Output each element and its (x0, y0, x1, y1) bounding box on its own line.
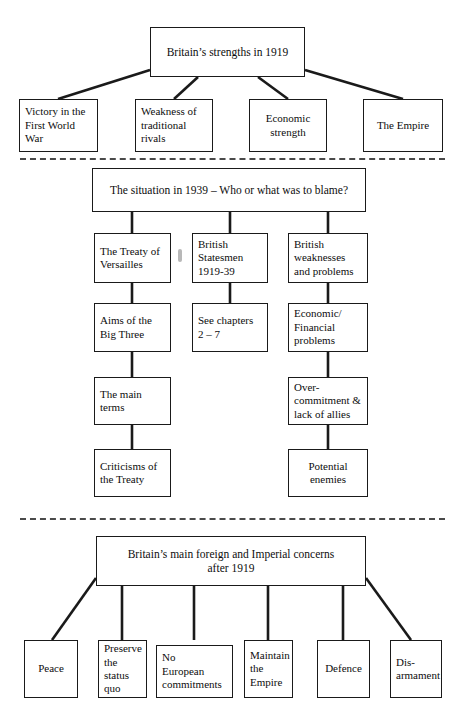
node-label: The situation in 1939 – Who or what was … (93, 183, 365, 197)
node-maintain-the-empire[interactable]: Maintain the Empire (244, 640, 293, 698)
node-label: Defence (318, 662, 369, 675)
node-disarmament[interactable]: Dis- armament (390, 640, 442, 698)
node-label: No European commitments (157, 651, 232, 691)
node-label: Victory in the First World War (20, 105, 97, 145)
node-the-empire[interactable]: The Empire (363, 99, 443, 152)
node-defence[interactable]: Defence (317, 640, 370, 698)
node-economic-financial-problems[interactable]: Economic/ Financial problems (288, 303, 368, 352)
node-label: Preserve the status quo (99, 642, 146, 696)
node-label: Maintain the Empire (245, 649, 293, 689)
node-the-main-terms[interactable]: The main terms (94, 377, 171, 425)
node-british-weaknesses-problems[interactable]: British weaknesses and problems (288, 233, 368, 283)
connector-top-2 (174, 77, 198, 99)
node-label: Aims of the Big Three (95, 314, 170, 341)
node-label: The Treaty of Versailles (95, 245, 170, 272)
diagram-canvas: Britain’s strengths in 1919 Victory in t… (0, 0, 463, 717)
node-label: The Empire (364, 119, 442, 132)
node-weakness-traditional-rivals[interactable]: Weakness of traditional rivals (135, 99, 213, 152)
node-victory-first-world-war[interactable]: Victory in the First World War (19, 99, 98, 152)
node-peace[interactable]: Peace (24, 640, 78, 698)
node-britains-main-foreign-imperial-concerns[interactable]: Britain’s main foreign and Imperial conc… (96, 536, 366, 586)
section-divider-top (20, 158, 445, 160)
connector-bot-6 (366, 578, 411, 640)
node-preserve-the-status-quo[interactable]: Preserve the status quo (98, 640, 147, 698)
node-economic-strength[interactable]: Economic strength (249, 99, 327, 152)
node-aims-of-big-three[interactable]: Aims of the Big Three (94, 303, 171, 352)
node-label: Britain’s main foreign and Imperial conc… (97, 547, 365, 575)
node-over-commitment-lack-of-allies[interactable]: Over- commitment & lack of allies (288, 377, 368, 425)
scan-artifact-speck (178, 249, 182, 262)
node-label: Economic strength (250, 112, 326, 139)
node-label: British Statesmen 1919-39 (193, 238, 267, 278)
node-see-chapters[interactable]: See chapters 2 – 7 (192, 303, 268, 352)
node-criticisms-of-the-treaty[interactable]: Criticisms of the Treaty (94, 449, 171, 497)
node-label: Economic/ Financial problems (289, 307, 367, 347)
node-label: Potential enemies (289, 460, 367, 487)
node-label: Weakness of traditional rivals (136, 105, 212, 145)
node-british-statesmen[interactable]: British Statesmen 1919-39 (192, 233, 268, 283)
node-situation-1939[interactable]: The situation in 1939 – Who or what was … (92, 168, 366, 212)
connector-top-3 (258, 77, 288, 99)
node-treaty-of-versailles[interactable]: The Treaty of Versailles (94, 233, 171, 283)
connector-top-4 (305, 70, 403, 99)
node-no-european-commitments[interactable]: No European commitments (156, 645, 233, 698)
node-label: Britain’s strengths in 1919 (151, 45, 304, 59)
node-potential-enemies[interactable]: Potential enemies (288, 449, 368, 497)
connector-top-1 (58, 70, 150, 99)
node-label: The main terms (95, 388, 170, 415)
section-divider-bottom (20, 518, 445, 520)
node-label: Dis- armament (391, 656, 443, 683)
node-label: Over- commitment & lack of allies (289, 381, 367, 421)
node-britains-strengths-1919[interactable]: Britain’s strengths in 1919 (150, 27, 305, 77)
node-label: British weaknesses and problems (289, 238, 367, 278)
connector-bot-1 (52, 578, 96, 640)
node-label: See chapters 2 – 7 (193, 314, 267, 341)
node-label: Peace (25, 662, 77, 675)
node-label: Criticisms of the Treaty (95, 460, 170, 487)
